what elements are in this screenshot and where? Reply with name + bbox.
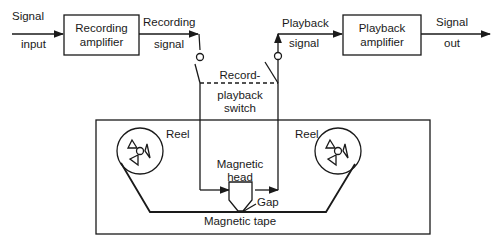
switch-label-2: playback: [210, 89, 270, 102]
playback-signal-label: Playback: [282, 17, 329, 30]
magnetic-head: [229, 182, 252, 211]
head-label-2: head: [210, 171, 270, 184]
playback-amplifier-label-2: amplifier: [343, 36, 421, 49]
reel-right-label: Reel: [295, 128, 319, 141]
signal-out-label-2: out: [444, 37, 460, 50]
switch-contact-play: [275, 53, 282, 60]
signal-input-label: Signal: [12, 10, 44, 23]
switch-label-3: switch: [210, 102, 270, 115]
signal-input-label-2: input: [21, 38, 46, 51]
playback-amplifier-box: [343, 15, 421, 55]
gap-label: Gap: [257, 196, 279, 209]
playback-signal-label-2: signal: [289, 37, 319, 50]
playback-amplifier-label: Playback: [343, 22, 421, 35]
head-label: Magnetic: [210, 158, 270, 171]
recording-signal-label-2: signal: [154, 38, 184, 51]
switch-contact-rec: [197, 54, 204, 61]
recording-amplifier-label-2: amplifier: [64, 36, 139, 49]
tape-label: Magnetic tape: [190, 215, 290, 228]
switch-label: Record-: [210, 69, 270, 82]
tape-recorder-diagram: Signal input Recording amplifier Recordi…: [0, 0, 504, 245]
reel-left-label: Reel: [166, 128, 190, 141]
signal-out-label: Signal: [436, 16, 468, 29]
recording-signal-label: Recording: [143, 16, 195, 29]
recording-amplifier-box: [64, 15, 139, 55]
recording-amplifier-label: Recording: [64, 22, 139, 35]
